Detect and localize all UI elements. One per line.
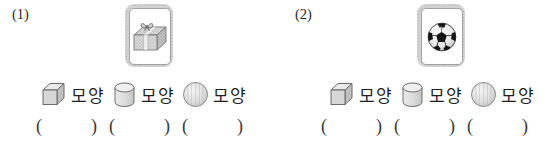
close-paren: ) [449, 116, 455, 137]
sphere-icon [470, 81, 497, 108]
open-paren: ( [394, 116, 400, 137]
cube-icon [40, 82, 67, 107]
soccer-ball-icon [426, 21, 458, 53]
shape-option-label: 모양 [141, 82, 175, 107]
answer-row: ( ) ( ) ( ) [36, 116, 255, 137]
problem-number: (1) [12, 6, 29, 23]
close-paren: ) [237, 116, 243, 137]
close-paren: ) [376, 116, 382, 137]
shape-option-box: 모양 [40, 82, 105, 107]
shape-option-sphere: 모양 [182, 81, 247, 108]
cylinder-icon [400, 81, 425, 108]
answer-slot-sphere[interactable]: ( ) [182, 116, 243, 137]
answer-slot-box[interactable]: ( ) [321, 116, 382, 137]
open-paren: ( [182, 116, 188, 137]
object-card [125, 4, 173, 67]
open-paren: ( [36, 116, 42, 137]
open-paren: ( [467, 116, 473, 137]
shape-option-label: 모양 [71, 82, 105, 107]
shape-option-label: 모양 [359, 82, 393, 107]
object-card [417, 4, 465, 67]
open-paren: ( [321, 116, 327, 137]
shape-options-row: 모양 모양 모양 [40, 81, 254, 108]
shape-option-box: 모양 [328, 82, 393, 107]
shape-option-label: 모양 [213, 82, 247, 107]
gift-box-icon [131, 19, 169, 55]
object-card-inner [421, 8, 463, 65]
answer-slot-cylinder[interactable]: ( ) [109, 116, 170, 137]
object-card-inner [129, 8, 171, 65]
shape-option-sphere: 모양 [470, 81, 535, 108]
problem-number: (2) [295, 6, 312, 23]
close-paren: ) [164, 116, 170, 137]
answer-slot-sphere[interactable]: ( ) [467, 116, 528, 137]
answer-slot-cylinder[interactable]: ( ) [394, 116, 455, 137]
close-paren: ) [91, 116, 97, 137]
cube-icon [328, 82, 355, 107]
cylinder-icon [112, 81, 137, 108]
shape-option-cylinder: 모양 [400, 81, 463, 108]
shape-option-cylinder: 모양 [112, 81, 175, 108]
close-paren: ) [522, 116, 528, 137]
sphere-icon [182, 81, 209, 108]
answer-row: ( ) ( ) ( ) [321, 116, 540, 137]
shape-option-label: 모양 [429, 82, 463, 107]
answer-slot-box[interactable]: ( ) [36, 116, 97, 137]
shape-options-row: 모양 모양 모양 [328, 81, 542, 108]
problem-2: (2) [275, 0, 550, 157]
shape-option-label: 모양 [501, 82, 535, 107]
open-paren: ( [109, 116, 115, 137]
problem-1: (1) 모 [0, 0, 275, 157]
